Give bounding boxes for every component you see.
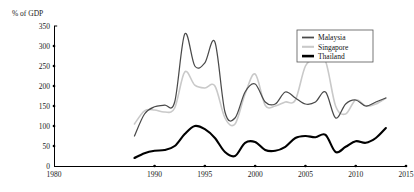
x-tick-label: 1995: [197, 170, 212, 179]
x-tick-label: 2015: [399, 170, 414, 179]
legend-label-thailand: Thailand: [318, 52, 345, 61]
x-tick-label: 2005: [298, 170, 313, 179]
y-tick-label: 250: [39, 62, 51, 71]
chart-container: % of GDP 050100150200250300350 198019901…: [0, 0, 414, 192]
x-tick-label: 1990: [147, 170, 162, 179]
x-axis-tick-labels: 1980199019952000200520102015: [47, 170, 414, 179]
y-axis-tick-labels: 050100150200250300350: [39, 22, 51, 171]
y-tick-label: 50: [43, 142, 51, 151]
legend-label-malaysia: Malaysia: [318, 33, 346, 42]
y-tick-label: 300: [39, 42, 51, 51]
y-axis-title: % of GDP: [12, 9, 43, 18]
x-tick-label: 1980: [47, 170, 62, 179]
y-tick-label: 350: [39, 22, 51, 31]
y-axis-tick-marks: [53, 26, 58, 147]
chart-legend: MalaysiaSingaporeThailand: [297, 30, 373, 62]
x-tick-label: 2010: [348, 170, 363, 179]
legend-label-singapore: Singapore: [318, 43, 349, 52]
series-line-thailand: [134, 126, 385, 158]
line-chart: % of GDP 050100150200250300350 198019901…: [0, 0, 414, 192]
y-tick-label: 150: [39, 102, 51, 111]
y-tick-label: 200: [39, 82, 51, 91]
x-tick-label: 2000: [248, 170, 263, 179]
y-tick-label: 100: [39, 122, 51, 131]
